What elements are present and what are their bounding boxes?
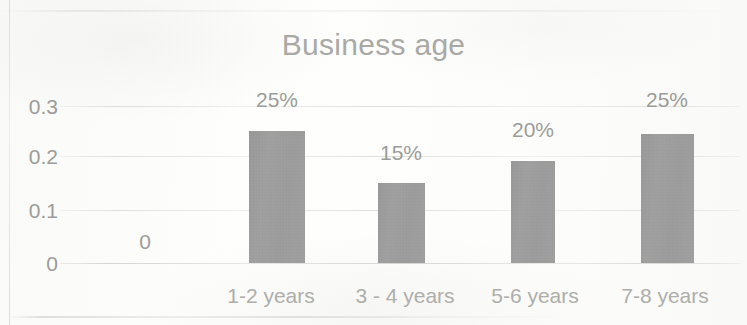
- business-age-chart: Business age 0.3 0.2 0.1 0 0 25% 15% 20%…: [0, 0, 747, 325]
- bar-data-label-5-6-years: 20%: [498, 118, 568, 142]
- bar-data-label-3-4-years: 15%: [366, 141, 436, 165]
- x-axis-label-5-6-years: 5-6 years: [475, 284, 595, 308]
- y-axis-tick-0.3: 0.3: [10, 95, 58, 119]
- y-axis-tick-0.1: 0.1: [10, 199, 58, 223]
- axis-baseline: [60, 263, 740, 264]
- bar-7-8-years: [641, 134, 694, 263]
- x-axis-label-1-2-years: 1-2 years: [211, 284, 331, 308]
- bar-5-6-years: [511, 161, 555, 263]
- y-axis-tick-0: 0: [10, 252, 58, 276]
- chart-title: Business age: [0, 28, 747, 62]
- bar-data-label-1-2-years: 25%: [242, 88, 312, 112]
- scan-smudge-top-artifact: [0, 10, 747, 12]
- bar-1-2-years: [249, 131, 305, 263]
- y-axis-tick-0.2: 0.2: [10, 145, 58, 169]
- x-axis-label-7-8-years: 7-8 years: [605, 284, 725, 308]
- scan-smudge-bottom-artifact: [8, 316, 568, 318]
- bar-3-4-years: [378, 183, 425, 263]
- x-axis-label-3-4-years: 3 - 4 years: [340, 284, 470, 308]
- bar-data-label-0: 0: [110, 230, 180, 254]
- bar-data-label-7-8-years: 25%: [632, 88, 702, 112]
